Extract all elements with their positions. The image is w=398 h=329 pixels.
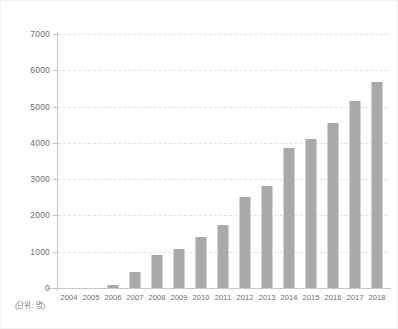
- x-axis-tick-label: 2007: [126, 293, 143, 302]
- x-axis-tick-label: 2008: [148, 293, 165, 302]
- bar-slot: 2007: [124, 34, 146, 288]
- x-axis-tick-label: 2015: [302, 293, 319, 302]
- y-axis-tick-label: 6000: [30, 65, 50, 75]
- bar-slot: 2016: [322, 34, 344, 288]
- y-axis-tick-label: 5000: [30, 102, 50, 112]
- bar-slot: 2015: [300, 34, 322, 288]
- bar-slot: 2013: [256, 34, 278, 288]
- bar[interactable]: [306, 139, 317, 288]
- bar[interactable]: [262, 186, 273, 288]
- bar[interactable]: [108, 285, 119, 288]
- x-axis-tick-label: 2010: [192, 293, 209, 302]
- x-axis-tick-label: 2014: [280, 293, 297, 302]
- bars-layer: 2004200520062007200820092010201120122013…: [58, 34, 388, 288]
- bar-slot: 2014: [278, 34, 300, 288]
- x-axis-tick-label: 2013: [258, 293, 275, 302]
- bar[interactable]: [350, 101, 361, 288]
- bar[interactable]: [174, 249, 185, 288]
- bar-slot: 2005: [80, 34, 102, 288]
- bar-slot: 2008: [146, 34, 168, 288]
- x-axis-tick-label: 2016: [324, 293, 341, 302]
- x-axis-tick-label: 2012: [236, 293, 253, 302]
- y-tick-mark: [53, 288, 58, 289]
- x-axis-tick-label: 2005: [82, 293, 99, 302]
- x-axis-tick-label: 2018: [368, 293, 385, 302]
- y-axis-tick-label: 3000: [30, 174, 50, 184]
- x-axis-line: [47, 288, 391, 289]
- bar-slot: 2017: [344, 34, 366, 288]
- unit-label: (단위: 명): [15, 299, 45, 310]
- bar[interactable]: [328, 123, 339, 288]
- y-axis-tick-label: 0: [45, 283, 50, 293]
- bar-chart-figure: 01000200030004000500060007000 2004200520…: [0, 0, 398, 329]
- bar[interactable]: [196, 237, 207, 288]
- bar[interactable]: [284, 148, 295, 288]
- x-axis-tick-label: 2004: [60, 293, 77, 302]
- bar[interactable]: [130, 272, 141, 288]
- x-axis-tick-label: 2017: [346, 293, 363, 302]
- x-axis-tick-label: 2009: [170, 293, 187, 302]
- x-axis-tick-label: 2011: [215, 293, 232, 302]
- bar-slot: 2018: [366, 34, 388, 288]
- y-axis-tick-label: 4000: [30, 138, 50, 148]
- plot-area: 01000200030004000500060007000 2004200520…: [58, 34, 388, 288]
- y-axis-tick-label: 1000: [30, 247, 50, 257]
- bar-slot: 2009: [168, 34, 190, 288]
- bar-slot: 2011: [212, 34, 234, 288]
- bar[interactable]: [240, 197, 251, 288]
- bar-slot: 2004: [58, 34, 80, 288]
- bar-slot: 2006: [102, 34, 124, 288]
- bar[interactable]: [218, 225, 229, 289]
- bar-slot: 2010: [190, 34, 212, 288]
- x-axis-tick-label: 2006: [104, 293, 121, 302]
- bar[interactable]: [152, 255, 163, 288]
- y-axis-tick-label: 7000: [30, 29, 50, 39]
- bar[interactable]: [372, 82, 383, 288]
- y-axis-tick-label: 2000: [30, 210, 50, 220]
- bar-slot: 2012: [234, 34, 256, 288]
